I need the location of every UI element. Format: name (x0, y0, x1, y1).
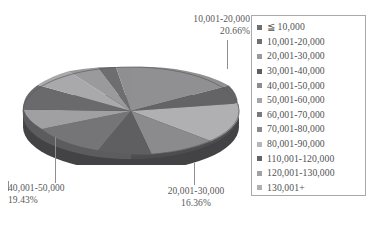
legend-item-label: 120,001-130,000 (267, 168, 335, 178)
callout-label-bottom-center: 20,001-30,000 16.36% (148, 186, 244, 209)
leader-line-bottom-left (55, 137, 56, 183)
callout-top-name: 10,001-20,000 (168, 14, 250, 26)
callout-bottom-left-name: 40,001-50,000 (8, 183, 104, 195)
callout-top-percent: 20.66% (168, 26, 250, 38)
legend-item[interactable]: 10,001-20,000 (257, 35, 365, 50)
legend-item-label: 60,001-70,000 (267, 110, 325, 120)
callout-bottom-left-percent: 19.43% (8, 195, 104, 207)
legend-swatch-icon (257, 142, 262, 147)
legend-swatch-icon (257, 25, 262, 30)
leader-line-bottom-center (194, 163, 195, 185)
legend-swatch-icon (257, 185, 262, 190)
legend-item-label: 40,001-50,000 (267, 81, 325, 91)
legend-item-label: 20,001-30,000 (267, 51, 325, 61)
legend-item[interactable]: ≦ 10,000 (257, 20, 365, 35)
legend-item-label: 50,001-60,000 (267, 95, 325, 105)
legend-item-label: 130,001+ (267, 183, 305, 193)
legend-item-label: 70,001-80,000 (267, 124, 325, 134)
callout-bottom-center-name: 20,001-30,000 (148, 186, 244, 198)
legend-item[interactable]: 50,001-60,000 (257, 93, 365, 108)
legend-swatch-icon (257, 83, 262, 88)
pie-chart-figure: 10,001-20,000 20.66% 40,001-50,000 19.43… (0, 0, 375, 237)
legend-item[interactable]: 120,001-130,000 (257, 166, 365, 181)
legend-item[interactable]: 30,001-40,000 (257, 64, 365, 79)
legend-item[interactable]: 110,001-120,000 (257, 151, 365, 166)
legend-item-label: ≦ 10,000 (267, 22, 305, 32)
legend-item[interactable]: 40,001-50,000 (257, 78, 365, 93)
legend-swatch-icon (257, 98, 262, 103)
legend-item[interactable]: 80,001-90,000 (257, 137, 365, 152)
legend-item-label: 30,001-40,000 (267, 66, 325, 76)
chart-legend: ≦ 10,00010,001-20,00020,001-30,00030,001… (251, 15, 366, 196)
callout-bottom-center-percent: 16.36% (148, 198, 244, 210)
legend-swatch-icon (257, 156, 262, 161)
pie-chart-graphic (21, 53, 241, 165)
legend-item[interactable]: 130,001+ (257, 181, 365, 196)
legend-item-label: 10,001-20,000 (267, 37, 325, 47)
leader-line-top (227, 40, 228, 69)
callout-label-top: 10,001-20,000 20.66% (168, 14, 250, 37)
legend-swatch-icon (257, 112, 262, 117)
legend-item[interactable]: 20,001-30,000 (257, 49, 365, 64)
callout-label-bottom-left: 40,001-50,000 19.43% (8, 183, 104, 206)
legend-item-label: 80,001-90,000 (267, 139, 325, 149)
legend-swatch-icon (257, 171, 262, 176)
legend-item[interactable]: 60,001-70,000 (257, 108, 365, 123)
legend-swatch-icon (257, 54, 262, 59)
legend-item[interactable]: 70,001-80,000 (257, 122, 365, 137)
legend-swatch-icon (257, 127, 262, 132)
legend-swatch-icon (257, 69, 262, 74)
legend-swatch-icon (257, 39, 262, 44)
pie-svg (21, 53, 241, 165)
legend-item-label: 110,001-120,000 (267, 154, 334, 164)
